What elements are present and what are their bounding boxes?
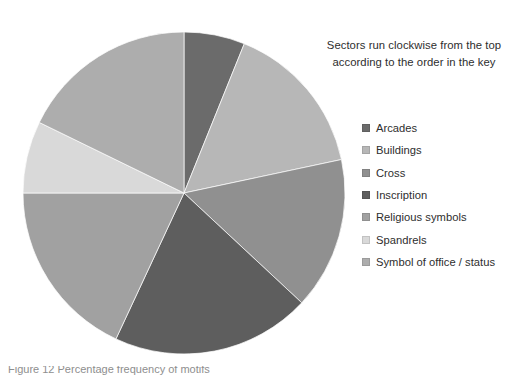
legend-item[interactable]: Arcades <box>362 117 517 139</box>
legend-item-label: Cross <box>376 167 405 179</box>
legend-item-label: Spandrels <box>376 234 427 246</box>
legend-item[interactable]: Symbol of office / status <box>362 251 517 273</box>
legend-item[interactable]: Inscription <box>362 184 517 206</box>
legend-swatch-icon <box>362 191 370 199</box>
legend-item[interactable]: Spandrels <box>362 228 517 250</box>
legend-item[interactable]: Buildings <box>362 139 517 161</box>
legend-item[interactable]: Cross <box>362 162 517 184</box>
chart-note-line-2: according to the order in the key <box>311 54 517 71</box>
figure-caption-clipped: Figure 12 Percentage frequency of motifs <box>8 366 308 375</box>
legend-item-label: Buildings <box>376 144 422 156</box>
legend-item-label: Religious symbols <box>376 211 467 223</box>
chart-legend: ArcadesBuildingsCrossInscriptionReligiou… <box>362 117 517 273</box>
legend-item[interactable]: Religious symbols <box>362 206 517 228</box>
legend-swatch-icon <box>362 258 370 266</box>
pie-chart-figure: Sectors run clockwise from the top accor… <box>0 0 517 375</box>
legend-item-label: Arcades <box>376 122 417 134</box>
legend-swatch-icon <box>362 169 370 177</box>
figure-caption-text: Figure 12 Percentage frequency of motifs <box>8 366 210 375</box>
legend-item-label: Inscription <box>376 189 427 201</box>
legend-swatch-icon <box>362 213 370 221</box>
legend-swatch-icon <box>362 124 370 132</box>
legend-item-label: Symbol of office / status <box>376 256 495 268</box>
chart-note-line-1: Sectors run clockwise from the top <box>311 37 517 54</box>
legend-swatch-icon <box>362 146 370 154</box>
chart-note: Sectors run clockwise from the top accor… <box>311 37 517 70</box>
legend-swatch-icon <box>362 236 370 244</box>
